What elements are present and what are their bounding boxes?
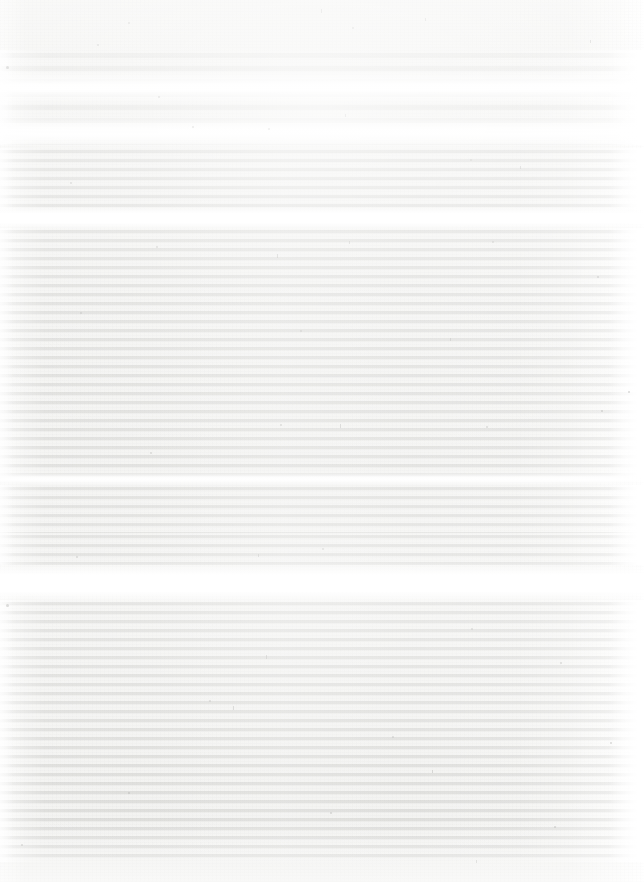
dust-speck bbox=[209, 700, 211, 702]
body-text-block bbox=[0, 690, 644, 862]
page-margin bbox=[0, 862, 644, 882]
paragraph-separator bbox=[0, 565, 644, 600]
dust-speck bbox=[6, 66, 9, 69]
left-edge-fade bbox=[0, 228, 14, 477]
dust-speck bbox=[471, 628, 473, 630]
dust-speck bbox=[470, 159, 472, 161]
body-text-block bbox=[0, 148, 644, 210]
dust-speck bbox=[352, 27, 354, 29]
body-text-block bbox=[0, 485, 644, 533]
dust-speck bbox=[277, 254, 278, 258]
dust-speck bbox=[554, 826, 556, 828]
dust-speck bbox=[340, 424, 341, 428]
left-edge-fade bbox=[0, 600, 14, 690]
dust-speck bbox=[97, 44, 99, 46]
left-edge-fade bbox=[0, 148, 14, 210]
right-edge-fade bbox=[610, 228, 644, 477]
dust-speck bbox=[520, 166, 521, 169]
dust-speck bbox=[280, 424, 282, 426]
ink-density-modulation bbox=[0, 485, 644, 533]
dust-speck bbox=[300, 330, 302, 332]
dust-speck bbox=[425, 18, 426, 21]
body-text-block bbox=[0, 228, 644, 477]
body-text-block bbox=[0, 600, 644, 690]
dust-speck bbox=[321, 9, 322, 13]
dust-speck bbox=[156, 246, 158, 248]
dust-speck bbox=[392, 736, 394, 738]
dust-speck bbox=[597, 276, 599, 278]
left-edge-fade bbox=[0, 533, 14, 565]
dust-speck bbox=[590, 40, 591, 43]
dust-speck bbox=[601, 410, 603, 412]
scanned-document-page bbox=[0, 0, 644, 882]
dust-speck bbox=[432, 770, 433, 773]
dust-speck bbox=[258, 554, 259, 557]
dust-speck bbox=[330, 812, 332, 814]
dust-speck bbox=[6, 604, 9, 607]
heading-text-block bbox=[0, 50, 644, 145]
dust-speck bbox=[486, 426, 488, 428]
dust-speck bbox=[476, 860, 477, 863]
dust-speck bbox=[192, 126, 194, 128]
right-edge-fade bbox=[610, 600, 644, 690]
ink-density-modulation bbox=[0, 148, 644, 210]
dust-speck bbox=[322, 548, 324, 550]
dust-speck bbox=[450, 338, 451, 341]
ink-density-modulation bbox=[0, 600, 644, 690]
dust-speck bbox=[268, 128, 270, 130]
ink-density-modulation bbox=[0, 228, 644, 477]
dust-speck bbox=[150, 452, 152, 454]
page-margin bbox=[0, 0, 644, 50]
right-edge-fade bbox=[610, 485, 644, 533]
dust-speck bbox=[560, 662, 562, 664]
dust-speck bbox=[158, 96, 160, 98]
dust-speck bbox=[76, 556, 78, 558]
right-edge-fade bbox=[610, 533, 644, 565]
dust-speck bbox=[233, 706, 234, 710]
dust-speck bbox=[345, 114, 346, 117]
ink-density-modulation bbox=[0, 50, 644, 145]
right-edge-fade bbox=[610, 690, 644, 862]
dust-speck bbox=[128, 792, 130, 794]
dust-speck bbox=[610, 742, 612, 744]
dust-speck bbox=[128, 22, 130, 24]
right-edge-fade bbox=[610, 148, 644, 210]
dust-speck bbox=[21, 844, 23, 846]
left-edge-fade bbox=[0, 690, 14, 862]
left-edge-fade bbox=[0, 485, 14, 533]
dust-speck bbox=[492, 241, 494, 243]
dust-speck bbox=[80, 312, 82, 314]
dust-speck bbox=[349, 241, 350, 244]
right-edge-fade bbox=[610, 50, 644, 145]
left-edge-fade bbox=[0, 50, 14, 145]
ink-density-modulation bbox=[0, 690, 644, 862]
dust-speck bbox=[266, 655, 267, 659]
paragraph-separator bbox=[0, 210, 644, 228]
paragraph-separator bbox=[0, 477, 644, 485]
dust-speck bbox=[70, 182, 72, 184]
dust-speck bbox=[628, 391, 630, 393]
